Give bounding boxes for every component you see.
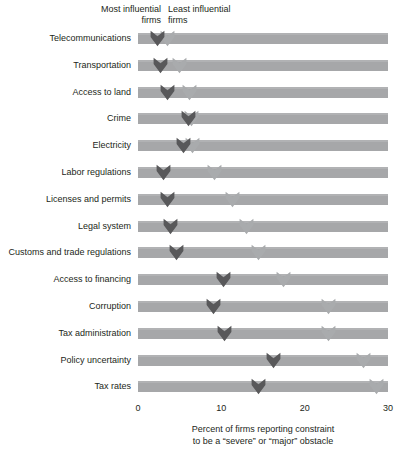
marker-least-influential	[251, 244, 266, 261]
chart-row: Electricity	[0, 134, 402, 161]
marker-least-influential	[182, 84, 197, 101]
category-bar	[138, 194, 388, 205]
marker-most-influential	[160, 191, 175, 208]
category-bar	[138, 167, 388, 178]
chart-row: Access to land	[0, 81, 402, 108]
category-bar	[138, 33, 388, 44]
x-axis-caption-line2: to be a “severe” or “major” obstacle	[138, 436, 388, 448]
category-label: Transportation	[0, 60, 131, 71]
chart-row: Labor regulations	[0, 161, 402, 188]
chart-row: Policy uncertainty	[0, 349, 402, 376]
category-bar	[138, 355, 388, 366]
chart-row: Access to financing	[0, 268, 402, 295]
marker-most-influential	[169, 244, 184, 261]
x-axis: 0102030	[0, 403, 402, 419]
category-label: Licenses and permits	[0, 194, 131, 205]
marker-most-influential	[206, 298, 221, 315]
marker-least-influential	[172, 57, 187, 74]
category-label: Telecommunications	[0, 33, 131, 44]
category-label: Access to land	[0, 87, 131, 98]
category-label: Customs and trade regulations	[0, 247, 131, 258]
marker-least-influential	[225, 191, 240, 208]
chart-row: Tax administration	[0, 322, 402, 349]
x-axis-caption-line1: Percent of firms reporting constraint	[138, 424, 388, 436]
category-bar	[138, 87, 388, 98]
category-label: Crime	[0, 113, 131, 124]
marker-most-influential	[266, 352, 281, 369]
category-label: Electricity	[0, 140, 131, 151]
plot-area: TelecommunicationsTransportationAccess t…	[0, 0, 402, 454]
marker-most-influential	[251, 378, 266, 395]
marker-most-influential	[181, 110, 196, 127]
marker-most-influential	[217, 325, 232, 342]
marker-least-influential	[356, 352, 371, 369]
chart-container: Most influential firms Least influential…	[0, 0, 402, 454]
marker-most-influential	[176, 137, 191, 154]
category-label: Legal system	[0, 221, 131, 232]
x-axis-caption: Percent of firms reporting constraint to…	[138, 424, 388, 447]
category-bar	[138, 328, 388, 339]
category-label: Tax administration	[0, 328, 131, 339]
marker-least-influential	[321, 298, 336, 315]
marker-least-influential	[276, 271, 291, 288]
category-label: Access to financing	[0, 274, 131, 285]
marker-least-influential	[239, 218, 254, 235]
x-axis-tick-label: 30	[383, 403, 393, 414]
category-bar	[138, 113, 388, 124]
category-label: Corruption	[0, 301, 131, 312]
marker-most-influential	[150, 30, 165, 47]
chart-row: Telecommunications	[0, 27, 402, 54]
chart-row: Customs and trade regulations	[0, 241, 402, 268]
chart-row: Corruption	[0, 295, 402, 322]
chart-row: Licenses and permits	[0, 188, 402, 215]
marker-least-influential	[369, 378, 384, 395]
category-bar	[138, 301, 388, 312]
marker-most-influential	[163, 218, 178, 235]
x-axis-tick-label: 10	[216, 403, 226, 414]
chart-row: Transportation	[0, 54, 402, 81]
marker-least-influential	[207, 164, 222, 181]
category-label: Tax rates	[0, 381, 131, 392]
marker-most-influential	[153, 57, 168, 74]
chart-row: Crime	[0, 107, 402, 134]
marker-least-influential	[321, 325, 336, 342]
x-axis-tick-label: 0	[135, 403, 140, 414]
chart-row: Tax rates	[0, 375, 402, 402]
x-axis-tick-label: 20	[300, 403, 310, 414]
marker-most-influential	[216, 271, 231, 288]
category-bar	[138, 274, 388, 285]
chart-row: Legal system	[0, 215, 402, 242]
category-label: Policy uncertainty	[0, 355, 131, 366]
category-label: Labor regulations	[0, 167, 131, 178]
marker-most-influential	[156, 164, 171, 181]
marker-most-influential	[160, 84, 175, 101]
